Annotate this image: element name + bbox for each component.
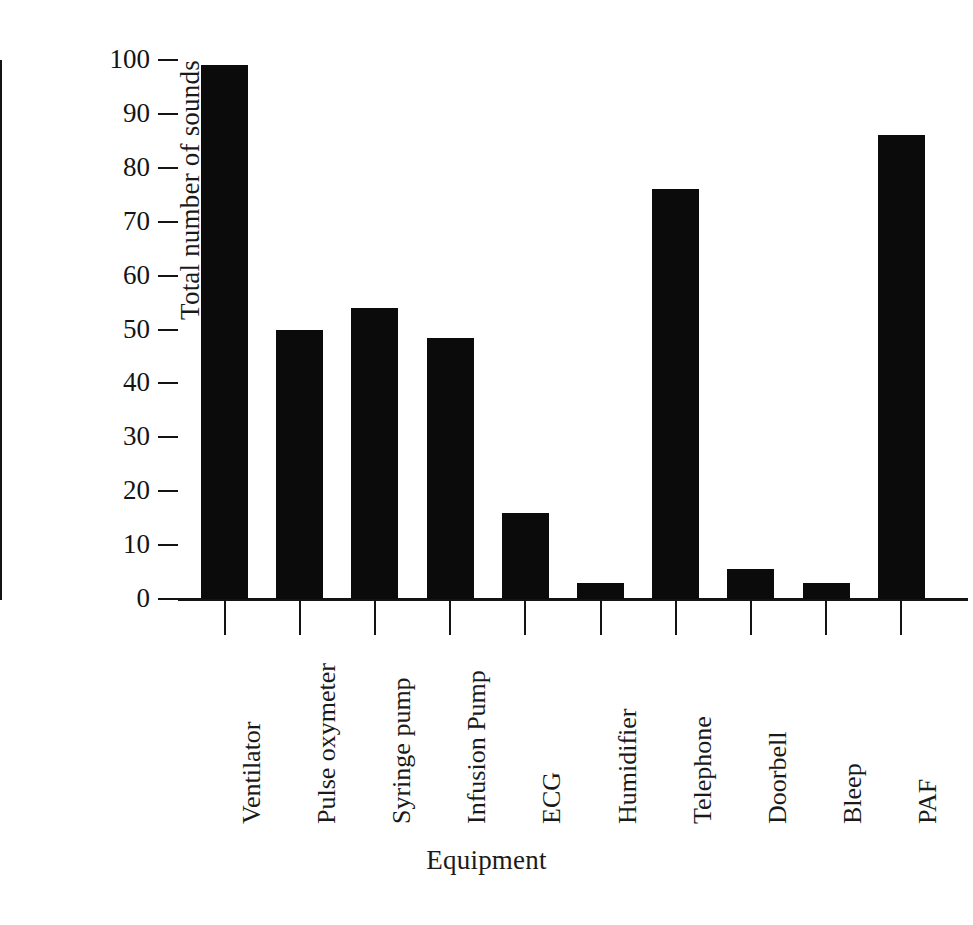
y-axis-tick: [158, 490, 178, 492]
x-axis-category-label: Doorbell: [764, 574, 792, 824]
bar-chart-figure: Total number of sounds 01020304050607080…: [0, 0, 973, 925]
y-axis-tick-label: 20: [0, 477, 150, 504]
y-axis-tick: [158, 113, 178, 115]
x-axis-tick: [825, 601, 827, 635]
bar: [427, 338, 474, 599]
y-axis-tick-label: 10: [0, 531, 150, 558]
x-axis-category-label: ECG: [538, 574, 566, 824]
y-axis-tick-label: 40: [0, 369, 150, 396]
x-axis-category-label: Humidifier: [614, 574, 642, 824]
y-axis-tick-label: 100: [0, 46, 150, 73]
x-axis-tick: [299, 601, 301, 635]
y-axis-tick-label: 30: [0, 423, 150, 450]
y-axis-tick-label: 90: [0, 100, 150, 127]
y-axis-tick: [158, 221, 178, 223]
x-axis-category-label: Bleep: [839, 574, 867, 824]
x-axis-category-label: PAF: [914, 574, 942, 824]
y-axis-tick: [158, 598, 178, 600]
bar: [201, 65, 248, 599]
x-axis-tick: [750, 601, 752, 635]
x-axis-tick: [449, 601, 451, 635]
x-axis-tick: [675, 601, 677, 635]
x-axis-category-label: Telephone: [689, 574, 717, 824]
x-axis-tick: [900, 601, 902, 635]
bar: [652, 189, 699, 599]
bar: [276, 330, 323, 600]
x-axis-category-label: Pulse oxymeter: [313, 574, 341, 824]
bar: [351, 308, 398, 599]
x-axis-tick: [600, 601, 602, 635]
x-axis-tick: [374, 601, 376, 635]
x-axis-tick: [224, 601, 226, 635]
y-axis-tick-label: 70: [0, 208, 150, 235]
y-axis-tick: [158, 382, 178, 384]
y-axis-tick-label: 80: [0, 154, 150, 181]
x-axis-category-label: Infusion Pump: [463, 574, 491, 824]
y-axis-tick: [158, 329, 178, 331]
x-axis-category-label: Ventilator: [238, 574, 266, 824]
y-axis-tick: [158, 167, 178, 169]
bar: [878, 135, 925, 599]
y-axis-tick: [158, 544, 178, 546]
y-axis-tick: [158, 275, 178, 277]
x-axis-title: Equipment: [0, 845, 973, 876]
y-axis-tick-label: 0: [0, 585, 150, 612]
x-axis-tick: [524, 601, 526, 635]
x-axis-category-label: Syringe pump: [388, 574, 416, 824]
y-axis-tick: [158, 59, 178, 61]
y-axis-tick: [158, 436, 178, 438]
y-axis-tick-label: 50: [0, 316, 150, 343]
y-axis-tick-label: 60: [0, 262, 150, 289]
